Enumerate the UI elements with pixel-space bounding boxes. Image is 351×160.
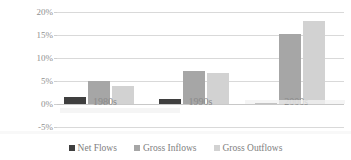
x-axis-label-1990s: 1990s [153, 96, 249, 107]
legend-item-gross-outflows[interactable]: Gross Outflows [214, 143, 283, 153]
legend-swatch-icon [214, 145, 220, 151]
legend-swatch-icon [69, 145, 75, 151]
plot-area: 20%15%10%5%0%-5% [57, 12, 344, 127]
y-axis-tick-label: 10% [37, 54, 54, 63]
x-axis-label-2000s: 2000s [248, 96, 344, 107]
bar-gross-outflows-2000s [303, 21, 325, 104]
legend-label: Gross Outflows [223, 143, 283, 153]
bar-group [248, 12, 344, 127]
x-axis-label-1980s: 1980s [57, 96, 153, 107]
y-axis-tick-label: 20% [37, 8, 54, 17]
bar-group [153, 12, 249, 127]
bar-gross-inflows-2000s [279, 34, 301, 104]
y-axis-tickmark [54, 127, 57, 128]
chart-legend: Net FlowsGross InflowsGross Outflows [0, 143, 351, 153]
y-axis-tick-label: 15% [37, 31, 54, 40]
bar-group [57, 12, 153, 127]
y-axis-tick-label: -5% [38, 123, 53, 132]
legend-item-net-flows[interactable]: Net Flows [69, 143, 117, 153]
bar-series-layer [57, 12, 344, 127]
legend-item-gross-inflows[interactable]: Gross Inflows [134, 143, 197, 153]
chart-figure: Median Value of Country Averages / Trend… [0, 0, 351, 160]
legend-label: Gross Inflows [143, 143, 197, 153]
gridline [57, 127, 344, 128]
legend-swatch-icon [134, 145, 140, 151]
legend-label: Net Flows [78, 143, 117, 153]
y-axis-tick-label: 0% [41, 100, 53, 109]
y-axis-tick-label: 5% [41, 77, 53, 86]
